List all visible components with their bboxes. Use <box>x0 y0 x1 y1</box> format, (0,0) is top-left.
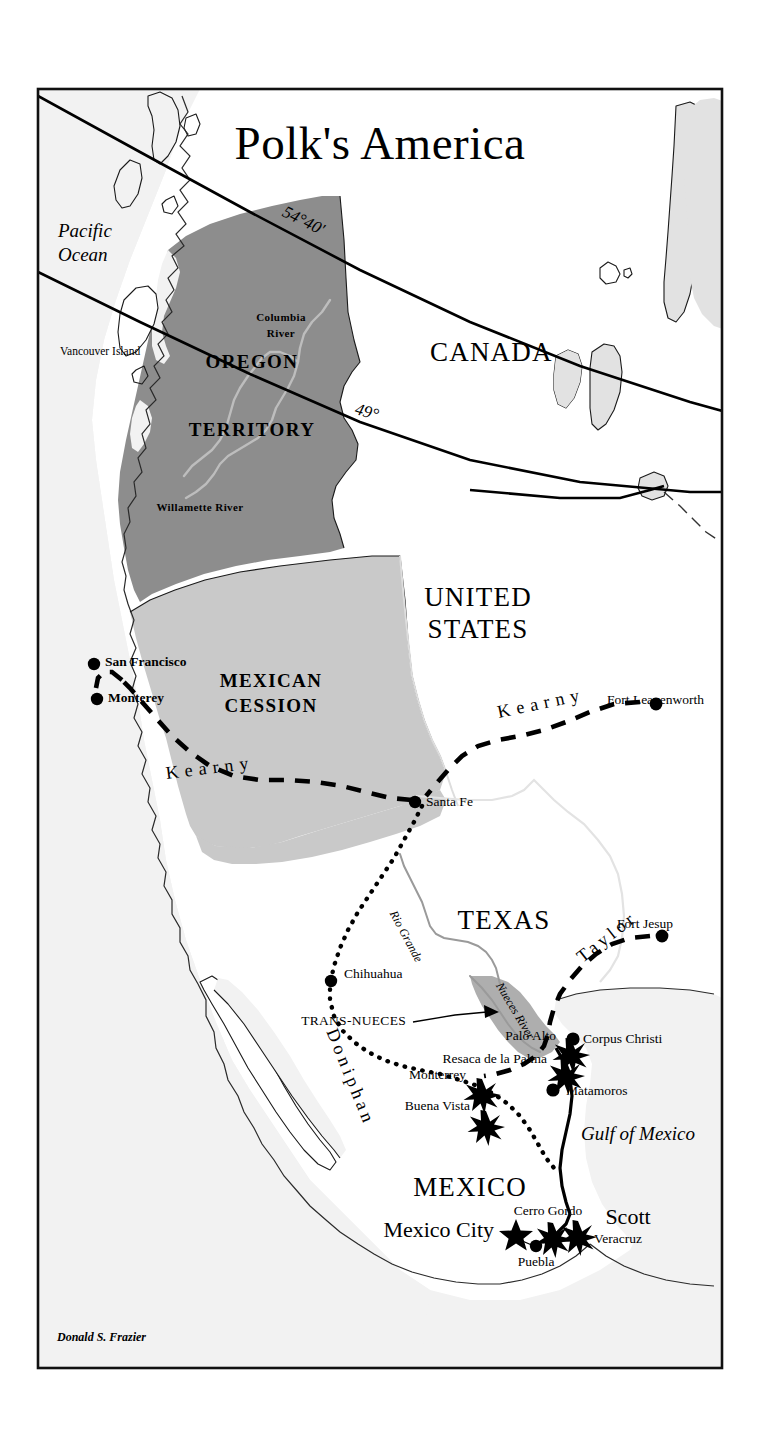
willamette-river-label: Willamette River <box>156 501 243 513</box>
san-francisco-marker[interactable] <box>88 658 100 670</box>
mexico-label: MEXICO <box>413 1172 527 1202</box>
mexican-cession-label-line1: MEXICAN <box>220 670 323 691</box>
puebla-label: Puebla <box>518 1254 555 1269</box>
texas-label: TEXAS <box>458 905 551 935</box>
united-states-label-line1: UNITED <box>424 582 532 612</box>
map-title: Polk's America <box>235 117 526 169</box>
map-figure: Polk's America Pacific Ocean Gulf of Mex… <box>0 0 764 1455</box>
corpus-christi-label: Corpus Christi <box>583 1031 662 1046</box>
monterey-label: Monterey <box>108 690 164 705</box>
resaca-de-la-palma-label: Resaca de la Palma <box>442 1051 547 1066</box>
mexico-city-label: Mexico City <box>383 1217 494 1242</box>
united-states-label-line2: STATES <box>427 614 528 644</box>
fort-jesup-marker[interactable] <box>656 930 669 943</box>
columbia-river-label-line1: Columbia <box>256 311 306 323</box>
scott-label: Scott <box>605 1204 650 1229</box>
map-canvas: Polk's America Pacific Ocean Gulf of Mex… <box>38 89 760 1368</box>
fort-leavenworth-label: Fort Leavenworth <box>607 692 704 707</box>
monterrey-label: Monterrey <box>409 1067 466 1082</box>
palo-alto-label: Palo Alto <box>505 1028 556 1043</box>
veracruz-label: Veracruz <box>594 1231 642 1246</box>
mexican-cession-label-line2: CESSION <box>224 695 317 716</box>
monterey-marker[interactable] <box>91 693 103 705</box>
matamoros-label: Matamoros <box>566 1083 628 1098</box>
territory-label: TERRITORY <box>189 419 316 440</box>
fort-jesup-label: Fort Jesup <box>617 916 673 931</box>
san-francisco-label: San Francisco <box>105 654 187 669</box>
cerro-gordo-label: Cerro Gordo <box>514 1203 583 1218</box>
oregon-label: OREGON <box>206 351 299 372</box>
buena-vista-label: Buena Vista <box>405 1098 470 1113</box>
map-credit: Donald S. Frazier <box>56 1330 146 1344</box>
columbia-river-label-line2: River <box>267 327 295 339</box>
gulf-of-mexico-label: Gulf of Mexico <box>581 1123 695 1144</box>
santa-fe-marker[interactable] <box>409 796 421 808</box>
trans-nueces-label: TRANS-NUECES <box>301 1013 406 1028</box>
chihuahua-marker[interactable] <box>325 975 337 987</box>
chihuahua-label: Chihuahua <box>344 966 403 981</box>
santa-fe-label: Santa Fe <box>426 794 473 809</box>
vancouver-island-label: Vancouver Island <box>60 345 140 357</box>
pacific-ocean-label-line2: Ocean <box>58 244 108 265</box>
pacific-ocean-label-line1: Pacific <box>57 220 112 241</box>
canada-label: CANADA <box>430 337 553 367</box>
